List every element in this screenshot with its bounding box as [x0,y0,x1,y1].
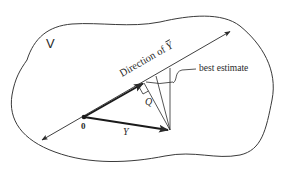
direction-line [42,32,230,141]
estimate-arc [146,82,173,84]
best-estimate-leader [173,69,196,83]
origin-label: 0 [81,122,86,131]
q-label: Q [145,97,152,107]
estimate-line-1 [156,76,170,130]
origin-point [82,115,87,120]
vector-label: Y [123,127,129,137]
right-angle-mark [139,86,149,94]
best-estimate-label: best estimate [199,64,248,74]
vector-projection-diagram: V Direction of Y best estimate Q 0 Y [0,0,287,173]
diagram-graphics [0,0,287,173]
projection-vector [84,84,143,118]
space-label: V [46,37,55,50]
